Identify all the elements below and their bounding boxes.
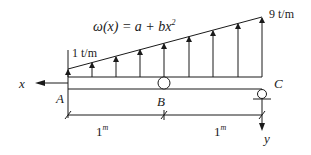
x-axis-label: x: [19, 77, 25, 90]
span-ab-label: 1m: [96, 124, 108, 138]
x-axis-arrow: [35, 80, 68, 86]
y-axis-label: y: [264, 132, 270, 145]
point-b-label: B: [157, 95, 165, 108]
hinge-b-icon: [158, 77, 170, 89]
span-bc-label: 1m: [214, 124, 226, 138]
load-left-value: 1 t/m: [72, 47, 97, 59]
beam-diagram: ω(x) = a + bx2 1 t/m 9 t/m x A B C 1m 1m…: [0, 0, 311, 155]
point-a-label: A: [56, 92, 64, 105]
roller-support-c-icon: [253, 90, 271, 100]
dimension-line: [65, 110, 265, 120]
load-right-value: 9 t/m: [269, 8, 294, 20]
point-c-label: C: [274, 77, 283, 90]
load-equation: ω(x) = a + bx2: [93, 19, 176, 34]
